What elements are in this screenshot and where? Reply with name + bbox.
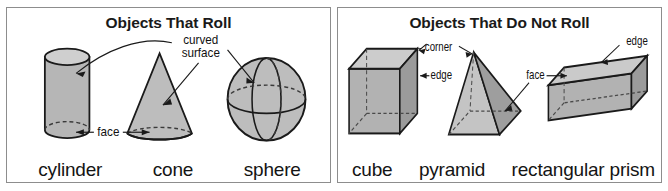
roll-shapes-svg: curved surface face <box>7 31 330 161</box>
annotation-face-roll-label: face <box>97 124 119 138</box>
geometry-solids-figure: Objects That Roll <box>0 0 668 191</box>
shape-name-rectangular-prism: rectangular prism <box>512 160 655 179</box>
no-roll-shapes-svg: corner edge face <box>338 31 661 161</box>
roll-shape-names: cylinder cone sphere <box>7 160 330 182</box>
shape-name-pyramid: pyramid <box>419 160 485 179</box>
annotation-edge-cube-label: edge <box>431 68 453 81</box>
no-roll-shape-names: cube pyramid rectangular prism <box>338 160 661 182</box>
panel-objects-that-roll: Objects That Roll <box>6 7 331 183</box>
pyramid-shape <box>449 52 521 134</box>
panel-objects-that-do-not-roll: Objects That Do Not Roll <box>337 7 662 183</box>
cone-shape <box>127 53 192 139</box>
roll-shapes-area: curved surface face <box>7 31 330 161</box>
no-roll-shapes-area: corner edge face <box>338 31 661 161</box>
shape-name-cylinder: cylinder <box>38 160 102 179</box>
annotation-edge-prism-label: edge <box>626 33 648 46</box>
sphere-shape <box>228 58 306 140</box>
shape-name-cone: cone <box>153 160 193 179</box>
annotation-corner: corner <box>419 39 473 57</box>
annotation-edge-cube: edge <box>420 68 452 81</box>
cube-shape <box>349 48 417 133</box>
cylinder-shape <box>45 48 90 137</box>
annotation-face-no-roll-label: face <box>526 68 544 81</box>
annotation-corner-label: corner <box>425 39 453 52</box>
annotation-curved-surface-line2: surface <box>182 45 221 59</box>
rectangular-prism-shape <box>548 55 647 120</box>
panel-title-roll: Objects That Roll <box>7 15 330 31</box>
panel-title-no-roll: Objects That Do Not Roll <box>338 15 661 31</box>
shape-name-cube: cube <box>352 160 392 179</box>
shape-name-sphere: sphere <box>244 160 301 179</box>
